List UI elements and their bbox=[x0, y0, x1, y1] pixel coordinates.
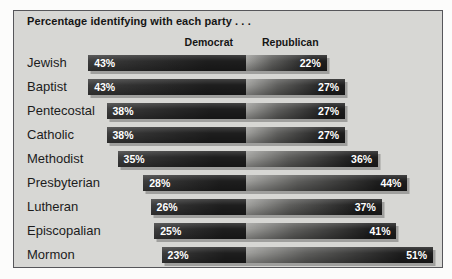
republican-bar-segment: 36% bbox=[246, 151, 378, 167]
republican-value-label: 36% bbox=[351, 153, 372, 165]
democrat-value-label: 25% bbox=[160, 225, 181, 237]
republican-bar-segment: 44% bbox=[246, 175, 407, 191]
bar-jewish: 43%22% bbox=[88, 55, 327, 71]
democrat-value-label: 38% bbox=[113, 105, 134, 117]
democrat-bar-segment: 28% bbox=[143, 175, 246, 191]
republican-bar-segment: 27% bbox=[246, 127, 345, 143]
democrat-bar-segment: 38% bbox=[107, 127, 246, 143]
republican-value-label: 27% bbox=[318, 81, 339, 93]
republican-value-label: 37% bbox=[355, 201, 376, 213]
democrat-bar-segment: 25% bbox=[154, 223, 246, 239]
chart-figure: Percentage identifying with each party .… bbox=[0, 0, 452, 279]
bar-methodist: 35%36% bbox=[118, 151, 379, 167]
republican-value-label: 41% bbox=[369, 225, 390, 237]
bar-mormon: 23%51% bbox=[162, 247, 434, 263]
row-label-episcopalian: Episcopalian bbox=[27, 223, 101, 239]
column-header-republican: Republican bbox=[262, 36, 319, 48]
row-label-presbyterian: Presbyterian bbox=[27, 175, 100, 191]
democrat-bar-segment: 26% bbox=[151, 199, 246, 215]
row-label-catholic: Catholic bbox=[27, 127, 74, 143]
bar-presbyterian: 28%44% bbox=[143, 175, 407, 191]
republican-bar-segment: 27% bbox=[246, 79, 345, 95]
democrat-bar-segment: 43% bbox=[88, 55, 246, 71]
bar-lutheran: 26%37% bbox=[151, 199, 382, 215]
bar-baptist: 43%27% bbox=[88, 79, 345, 95]
democrat-value-label: 35% bbox=[124, 153, 145, 165]
republican-value-label: 22% bbox=[300, 57, 321, 69]
chart-title: Percentage identifying with each party .… bbox=[27, 15, 251, 27]
democrat-value-label: 43% bbox=[94, 57, 115, 69]
republican-bar-segment: 22% bbox=[246, 55, 327, 71]
democrat-value-label: 26% bbox=[157, 201, 178, 213]
row-label-jewish: Jewish bbox=[27, 55, 67, 71]
republican-bar-segment: 37% bbox=[246, 199, 382, 215]
row-label-baptist: Baptist bbox=[27, 79, 67, 95]
bar-pentecostal: 38%27% bbox=[107, 103, 346, 119]
bar-catholic: 38%27% bbox=[107, 127, 346, 143]
democrat-bar-segment: 43% bbox=[88, 79, 246, 95]
republican-bar-segment: 51% bbox=[246, 247, 433, 263]
republican-bar-segment: 41% bbox=[246, 223, 396, 239]
republican-value-label: 27% bbox=[318, 129, 339, 141]
row-label-pentecostal: Pentecostal bbox=[27, 103, 95, 119]
row-label-mormon: Mormon bbox=[27, 247, 75, 263]
republican-bar-segment: 27% bbox=[246, 103, 345, 119]
republican-value-label: 44% bbox=[380, 177, 401, 189]
democrat-bar-segment: 35% bbox=[118, 151, 246, 167]
democrat-value-label: 23% bbox=[168, 249, 189, 261]
row-label-lutheran: Lutheran bbox=[27, 199, 78, 215]
democrat-bar-segment: 38% bbox=[107, 103, 246, 119]
republican-value-label: 51% bbox=[406, 249, 427, 261]
democrat-value-label: 38% bbox=[113, 129, 134, 141]
democrat-value-label: 43% bbox=[94, 81, 115, 93]
bar-episcopalian: 25%41% bbox=[154, 223, 396, 239]
democrat-bar-segment: 23% bbox=[162, 247, 246, 263]
row-label-methodist: Methodist bbox=[27, 151, 83, 167]
republican-value-label: 27% bbox=[318, 105, 339, 117]
democrat-value-label: 28% bbox=[149, 177, 170, 189]
column-header-democrat: Democrat bbox=[140, 36, 233, 48]
